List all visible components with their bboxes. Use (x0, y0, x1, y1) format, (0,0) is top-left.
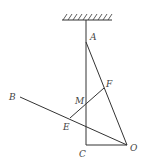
label-O: O (130, 143, 138, 153)
label-F: F (105, 79, 113, 89)
label-A: A (89, 32, 97, 42)
geometry-diagram: A B C E F M O (0, 0, 146, 166)
label-C: C (79, 149, 86, 159)
label-B: B (8, 92, 16, 102)
ceiling-support (62, 14, 112, 20)
label-M: M (74, 96, 85, 106)
label-E: E (62, 122, 70, 132)
